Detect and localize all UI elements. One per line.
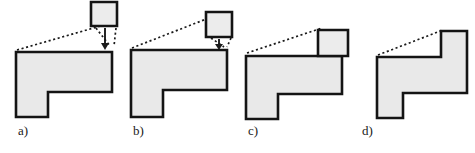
- panel-d-group: [377, 30, 467, 118]
- panel-d-merged-polygon: [377, 31, 467, 118]
- panel-label-c: c): [248, 124, 258, 137]
- panel-b-leader-long: [132, 16, 214, 48]
- panel-c-square-block: [318, 30, 348, 56]
- panel-a-leader-right: [114, 28, 116, 46]
- panel-b-polygon: [131, 50, 227, 117]
- panel-label-b: b): [133, 124, 144, 137]
- panel-b-leader-right: [227, 38, 231, 47]
- panel-c-polygon: [246, 56, 342, 119]
- panel-c-leader-long: [247, 28, 322, 53]
- panel-a-arrow-head-icon: [101, 43, 109, 50]
- panel-c-group: [246, 28, 348, 119]
- panel-label-a: a): [18, 124, 28, 137]
- panel-b-square-block: [206, 12, 232, 37]
- panel-a-polygon: [16, 52, 112, 117]
- panel-a-square-block: [91, 2, 117, 26]
- panel-a-leader-long: [17, 25, 104, 50]
- panel-label-d: d): [362, 124, 373, 137]
- panel-a-group: [16, 2, 117, 117]
- panel-b-group: [131, 12, 232, 117]
- panel-d-leader-long: [378, 30, 443, 55]
- figure-canvas: [0, 0, 475, 153]
- figure-container: a) b) c) d): [0, 0, 475, 153]
